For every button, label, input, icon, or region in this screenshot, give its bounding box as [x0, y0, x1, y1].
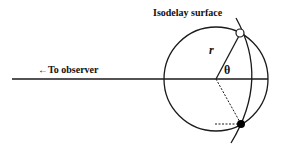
isodelay-diagram: Isodelay surface ←To observer r θ [0, 0, 284, 147]
angle-label: θ [224, 63, 230, 77]
radius-label: r [209, 43, 214, 57]
open-point [236, 29, 244, 37]
observer-label: ←To observer [38, 64, 99, 75]
dashed-radius [216, 79, 241, 124]
filled-point [237, 120, 245, 128]
isodelay-label: Isodelay surface [153, 7, 223, 18]
